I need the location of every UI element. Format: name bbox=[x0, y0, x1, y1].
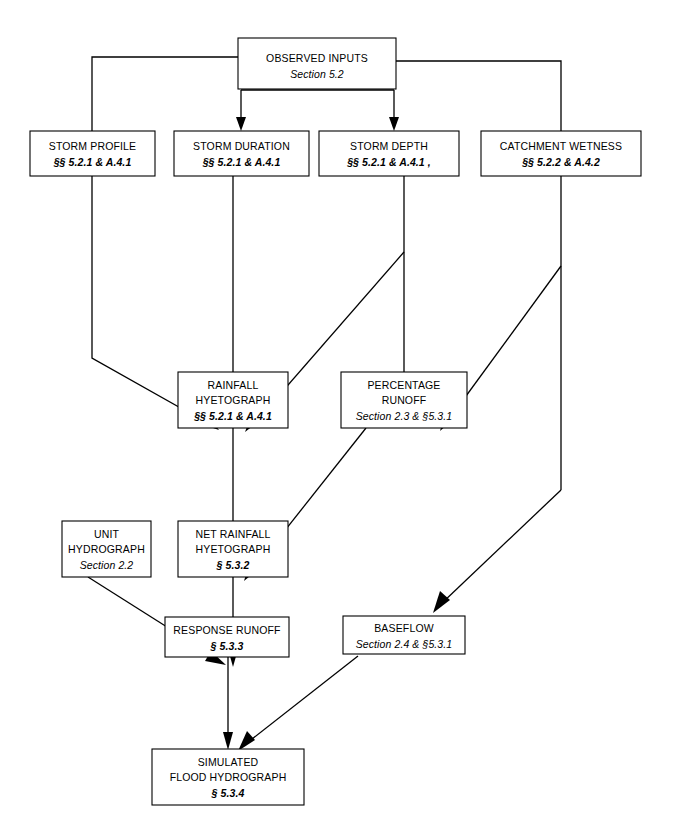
node-net-rainfall-hyetograph-ref: § 5.3.2 bbox=[216, 559, 250, 571]
node-response-runoff[interactable]: RESPONSE RUNOFF § 5.3.3 bbox=[165, 617, 289, 657]
edge-catchment-wetness-to-baseflow bbox=[441, 490, 561, 604]
edge-observed-to-catchment-wetness bbox=[396, 61, 561, 131]
node-catchment-wetness-ref: §§ 5.2.2 & A.4.2 bbox=[521, 156, 600, 168]
node-simulated-flood-hydrograph-ref: § 5.3.4 bbox=[211, 787, 245, 799]
node-percentage-runoff-title-1: PERCENTAGE bbox=[367, 379, 440, 391]
flowchart-diagram: OBSERVED INPUTS Section 5.2 STORM PROFIL… bbox=[0, 0, 673, 832]
node-storm-profile-title: STORM PROFILE bbox=[49, 140, 137, 152]
node-catchment-wetness-rect[interactable] bbox=[481, 131, 641, 176]
node-catchment-wetness-title: CATCHMENT WETNESS bbox=[500, 140, 622, 152]
node-simulated-flood-hydrograph[interactable]: SIMULATED FLOOD HYDROGRAPH § 5.3.4 bbox=[152, 749, 304, 805]
node-baseflow-title: BASEFLOW bbox=[374, 622, 434, 634]
node-storm-duration-title: STORM DURATION bbox=[193, 140, 290, 152]
node-layer: OBSERVED INPUTS Section 5.2 STORM PROFIL… bbox=[30, 38, 641, 805]
node-observed-inputs-ref: Section 5.2 bbox=[290, 68, 344, 80]
node-baseflow-ref: Section 2.4 & §5.3.1 bbox=[356, 638, 453, 650]
node-storm-depth[interactable]: STORM DEPTH §§ 5.2.1 & A.4.1 , bbox=[319, 131, 459, 176]
node-response-runoff-ref: § 5.3.3 bbox=[210, 640, 244, 652]
node-unit-hydrograph[interactable]: UNIT HYDROGRAPH Section 2.2 bbox=[62, 521, 151, 577]
node-storm-profile-rect[interactable] bbox=[30, 131, 155, 176]
node-storm-profile[interactable]: STORM PROFILE §§ 5.2.1 & A.4.1 bbox=[30, 131, 155, 176]
node-rainfall-hyetograph[interactable]: RAINFALL HYETOGRAPH §§ 5.2.1 & A.4.1 bbox=[178, 372, 288, 428]
node-rainfall-hyetograph-title-2: HYETOGRAPH bbox=[196, 394, 271, 406]
edge-baseflow-to-simulated-flood bbox=[247, 656, 358, 743]
node-percentage-runoff[interactable]: PERCENTAGE RUNOFF Section 2.3 & §5.3.1 bbox=[341, 372, 467, 428]
node-simulated-flood-hydrograph-title-2: FLOOD HYDROGRAPH bbox=[170, 771, 287, 783]
node-response-runoff-title: RESPONSE RUNOFF bbox=[173, 624, 280, 636]
node-storm-duration-ref: §§ 5.2.1 & A.4.1 bbox=[202, 156, 281, 168]
arrowhead-simulated-flood-from-response-runoff bbox=[223, 732, 233, 750]
node-unit-hydrograph-ref: Section 2.2 bbox=[80, 559, 134, 571]
node-storm-depth-title: STORM DEPTH bbox=[350, 140, 428, 152]
node-catchment-wetness[interactable]: CATCHMENT WETNESS §§ 5.2.2 & A.4.2 bbox=[481, 131, 641, 176]
node-storm-depth-rect[interactable] bbox=[319, 131, 459, 176]
arrowhead-simulated-flood-from-baseflow bbox=[238, 731, 255, 751]
node-percentage-runoff-title-2: RUNOFF bbox=[382, 394, 427, 406]
node-unit-hydrograph-title-2: HYDROGRAPH bbox=[68, 543, 145, 555]
node-net-rainfall-hyetograph-title-1: NET RAINFALL bbox=[195, 528, 270, 540]
node-storm-duration[interactable]: STORM DURATION §§ 5.2.1 & A.4.1 bbox=[174, 131, 309, 176]
arrowhead-storm-duration bbox=[236, 117, 246, 131]
node-observed-inputs[interactable]: OBSERVED INPUTS Section 5.2 bbox=[238, 38, 396, 89]
node-storm-depth-ref: §§ 5.2.1 & A.4.1 , bbox=[346, 156, 431, 168]
node-percentage-runoff-ref: Section 2.3 & §5.3.1 bbox=[356, 410, 453, 422]
arrowhead-baseflow bbox=[433, 591, 450, 613]
node-unit-hydrograph-title-1: UNIT bbox=[94, 528, 120, 540]
arrowhead-storm-depth bbox=[389, 117, 399, 131]
node-rainfall-hyetograph-title-1: RAINFALL bbox=[208, 379, 259, 391]
node-net-rainfall-hyetograph[interactable]: NET RAINFALL HYETOGRAPH § 5.3.2 bbox=[178, 521, 288, 577]
node-rainfall-hyetograph-ref: §§ 5.2.1 & A.4.1 bbox=[193, 410, 272, 422]
node-net-rainfall-hyetograph-title-2: HYETOGRAPH bbox=[196, 543, 271, 555]
node-storm-duration-rect[interactable] bbox=[174, 131, 309, 176]
node-simulated-flood-hydrograph-title-1: SIMULATED bbox=[198, 756, 259, 768]
node-baseflow[interactable]: BASEFLOW Section 2.4 & §5.3.1 bbox=[343, 616, 465, 654]
node-observed-inputs-title: OBSERVED INPUTS bbox=[266, 52, 368, 64]
edge-observed-to-storm-profile bbox=[92, 57, 238, 131]
flowchart-canvas: OBSERVED INPUTS Section 5.2 STORM PROFIL… bbox=[0, 0, 673, 832]
node-storm-profile-ref: §§ 5.2.1 & A.4.1 bbox=[53, 156, 132, 168]
